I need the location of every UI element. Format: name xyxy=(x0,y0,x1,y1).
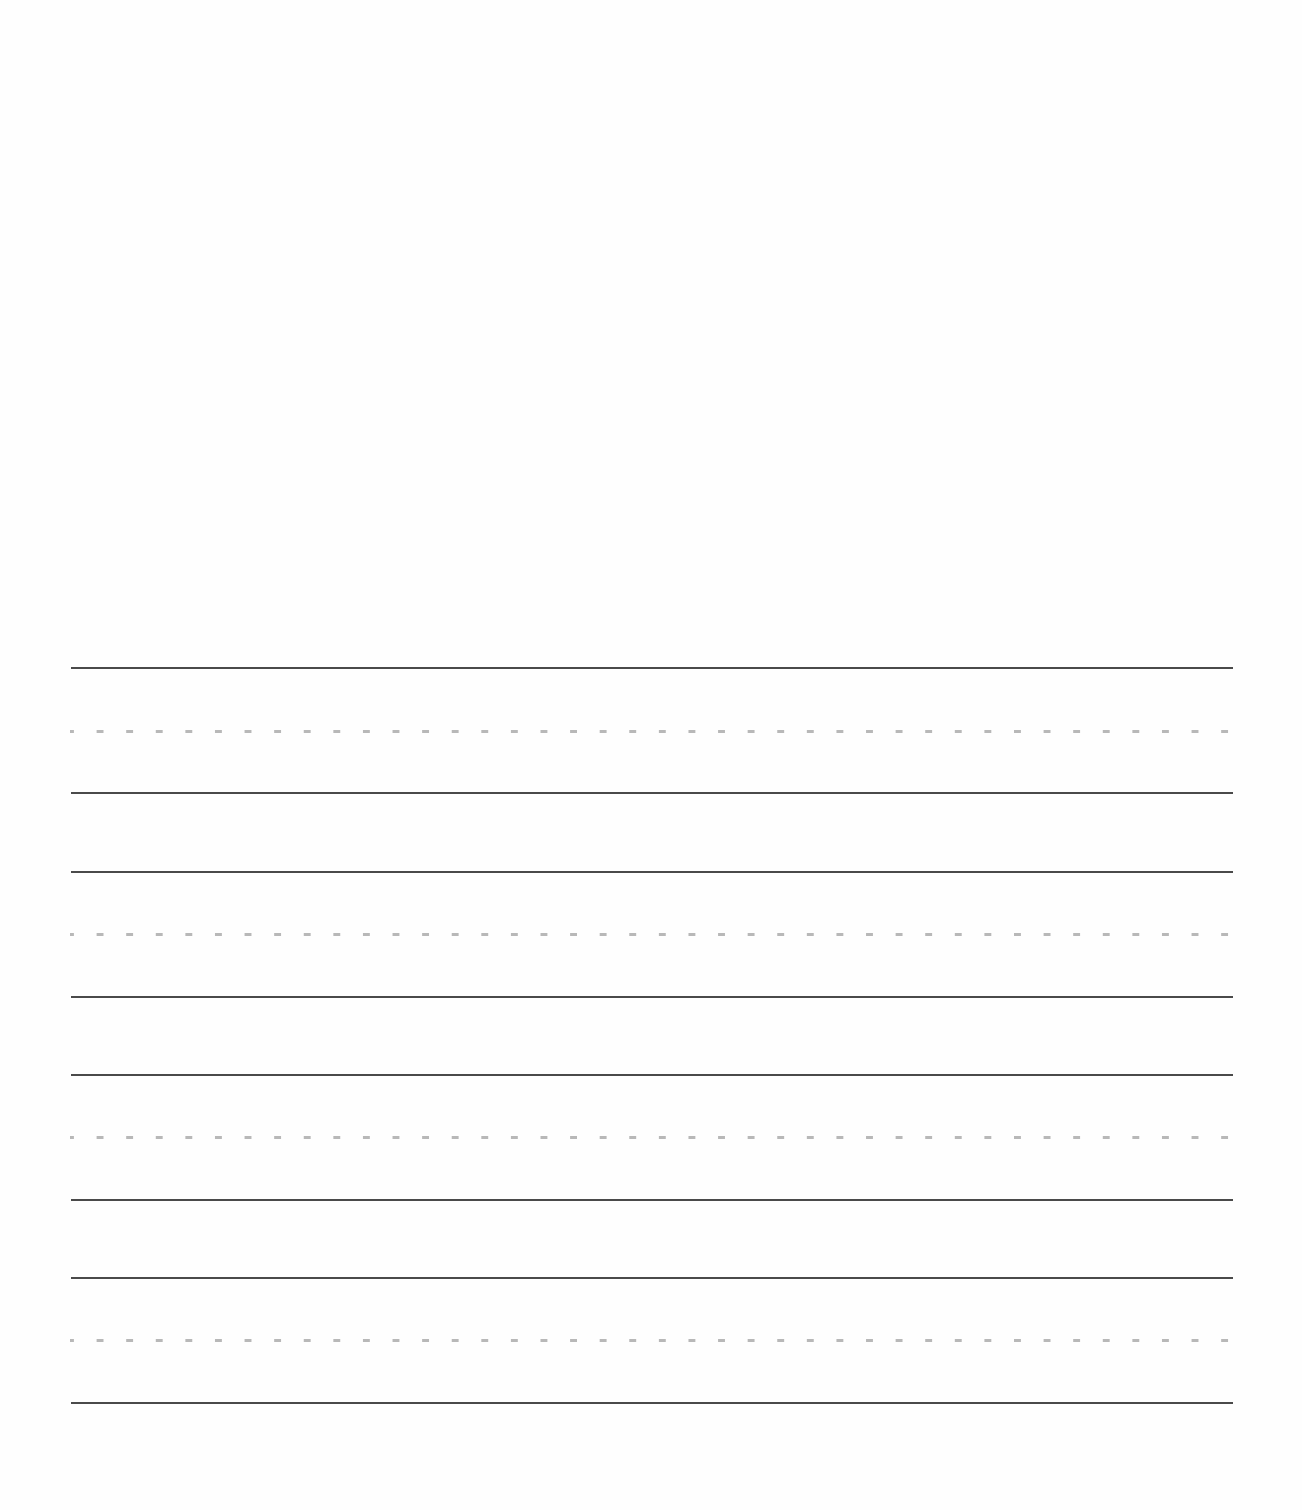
baseline xyxy=(71,996,1233,998)
top-line xyxy=(71,1074,1233,1076)
dashed-midline xyxy=(70,730,1233,733)
baseline xyxy=(71,792,1233,794)
dashed-midline xyxy=(70,1136,1233,1139)
dashed-midline xyxy=(70,1339,1233,1342)
baseline xyxy=(71,1199,1233,1201)
dashed-midline xyxy=(70,933,1233,936)
top-line xyxy=(71,667,1233,669)
top-line xyxy=(71,871,1233,873)
baseline xyxy=(71,1402,1233,1404)
writing-lines-area xyxy=(0,0,1302,1510)
top-line xyxy=(71,1277,1233,1279)
practice-sheet xyxy=(0,0,1302,1510)
